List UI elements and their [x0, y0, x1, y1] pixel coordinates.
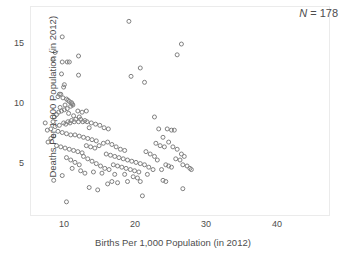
- data-point: [73, 160, 77, 164]
- data-point: [106, 127, 110, 131]
- data-point: [117, 156, 121, 160]
- data-point: [106, 182, 110, 186]
- data-point: [90, 138, 94, 142]
- data-point: [152, 115, 156, 119]
- data-point: [111, 163, 115, 167]
- data-point: [126, 158, 130, 162]
- sample-size-symbol: N: [299, 7, 307, 19]
- data-point: [143, 80, 147, 84]
- plot-area: [30, 6, 330, 216]
- data-point: [96, 188, 100, 192]
- data-point: [107, 168, 111, 172]
- data-point: [104, 152, 108, 156]
- data-point: [123, 172, 127, 176]
- data-point: [64, 200, 68, 204]
- data-point: [131, 175, 135, 179]
- data-point: [138, 180, 142, 184]
- data-point: [128, 168, 132, 172]
- data-points-layer: [31, 7, 329, 215]
- data-point: [165, 127, 169, 131]
- data-point: [83, 171, 87, 175]
- data-point: [94, 122, 98, 126]
- data-point: [148, 152, 152, 156]
- data-point: [114, 145, 118, 149]
- y-tick-label: 10: [2, 99, 24, 108]
- data-point: [172, 128, 176, 132]
- y-tick-label: 15: [2, 39, 24, 48]
- data-point: [123, 148, 127, 152]
- data-point: [86, 157, 90, 161]
- data-point: [97, 144, 101, 148]
- data-point: [116, 181, 120, 185]
- data-point: [134, 160, 138, 164]
- data-point: [161, 135, 165, 139]
- data-point: [151, 168, 155, 172]
- data-point: [76, 150, 80, 154]
- data-point: [87, 186, 91, 190]
- sample-size-value: 178: [320, 7, 338, 19]
- x-tick-label: 20: [120, 220, 150, 229]
- data-point: [162, 145, 166, 149]
- y-tick-label: 5: [2, 159, 24, 168]
- data-point: [72, 148, 76, 152]
- data-point: [98, 123, 102, 127]
- data-point: [101, 141, 105, 145]
- data-point: [174, 157, 178, 161]
- data-point: [67, 111, 71, 115]
- data-point: [94, 162, 98, 166]
- data-point: [87, 126, 91, 130]
- data-point: [93, 146, 97, 150]
- data-point: [137, 170, 141, 174]
- data-point: [60, 72, 64, 76]
- data-point: [157, 127, 161, 131]
- data-point: [89, 145, 93, 149]
- data-point: [175, 147, 179, 151]
- data-point: [143, 163, 147, 167]
- data-point: [179, 42, 183, 46]
- data-point: [133, 169, 137, 173]
- data-point: [152, 154, 156, 158]
- y-axis-title: Deaths Per 1,000 Population (in 2012): [48, 0, 58, 202]
- data-point: [59, 145, 63, 149]
- data-point: [110, 180, 114, 184]
- data-point: [181, 163, 185, 167]
- data-point: [69, 133, 73, 137]
- sample-size-equals: =: [307, 7, 320, 19]
- data-point: [77, 54, 81, 58]
- data-point: [70, 166, 74, 170]
- data-point: [89, 121, 93, 125]
- data-point: [60, 131, 64, 135]
- data-point: [118, 147, 122, 151]
- data-point: [80, 110, 84, 114]
- data-point: [113, 154, 117, 158]
- data-point: [108, 153, 112, 157]
- data-point: [126, 180, 130, 184]
- data-point: [82, 154, 86, 158]
- data-point: [113, 172, 117, 176]
- data-point: [60, 35, 64, 39]
- data-point: [63, 146, 67, 150]
- data-point: [84, 109, 88, 113]
- x-tick-label: 10: [49, 220, 79, 229]
- data-point: [124, 166, 128, 170]
- data-point: [182, 154, 186, 158]
- data-point: [63, 103, 67, 107]
- data-point: [147, 165, 151, 169]
- x-tick-label: 30: [191, 220, 221, 229]
- data-point: [154, 141, 158, 145]
- data-point: [167, 140, 171, 144]
- data-point: [86, 136, 90, 140]
- scatter-plot-figure: 51015 10203040 Deaths Per 1,000 Populati…: [0, 0, 346, 257]
- data-point: [102, 126, 106, 130]
- data-point: [116, 164, 120, 168]
- data-point: [100, 171, 104, 175]
- data-point: [138, 66, 142, 70]
- data-point: [67, 147, 71, 151]
- data-point: [178, 158, 182, 162]
- data-point: [94, 139, 98, 143]
- data-point: [140, 194, 144, 198]
- data-point: [77, 73, 81, 77]
- data-point: [120, 165, 124, 169]
- data-point: [82, 135, 86, 139]
- data-point: [84, 144, 88, 148]
